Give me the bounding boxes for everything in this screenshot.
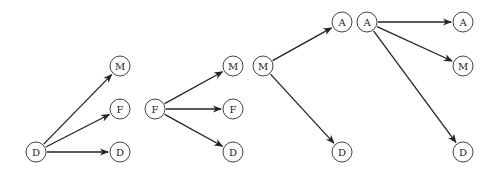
arrow-a-to-m	[377, 27, 452, 61]
node-m-target: M	[223, 56, 243, 76]
node-label: D	[229, 147, 237, 158]
node-a-source: A	[357, 12, 377, 32]
node-label: A	[362, 17, 371, 28]
node-f-target: F	[110, 99, 130, 119]
nodes: DMFDFMFDMADAAMD	[26, 12, 473, 162]
node-m-target: M	[453, 56, 473, 76]
arrow-a-to-d	[374, 31, 456, 142]
node-label: F	[152, 104, 159, 115]
arrow-d-to-f	[46, 114, 110, 147]
node-label: M	[228, 61, 238, 72]
arrow-m-to-a	[273, 28, 332, 61]
node-d-source: D	[26, 142, 46, 162]
node-label: A	[337, 17, 346, 28]
node-f-target: F	[223, 99, 243, 119]
node-m-source: M	[253, 56, 273, 76]
node-label: M	[115, 61, 125, 72]
node-label: D	[32, 147, 40, 158]
arrow-f-to-m	[165, 72, 223, 104]
node-a-target: A	[332, 12, 352, 32]
node-d-target: D	[332, 142, 352, 162]
node-label: M	[458, 61, 468, 72]
node-label: D	[116, 147, 124, 158]
node-label: F	[117, 104, 124, 115]
arrow-m-to-d	[270, 74, 333, 143]
node-label: D	[459, 147, 467, 158]
transition-diagram: DMFDFMFDMADAAMD	[0, 0, 497, 170]
node-d-target: D	[453, 142, 473, 162]
node-a-target: A	[453, 12, 473, 32]
node-label: A	[458, 17, 467, 28]
node-label: M	[258, 61, 268, 72]
node-label: F	[230, 104, 237, 115]
node-m-target: M	[110, 56, 130, 76]
arrow-f-to-d	[165, 114, 223, 146]
node-f-source: F	[145, 99, 165, 119]
node-label: D	[338, 147, 346, 158]
arrow-d-to-m	[44, 75, 112, 145]
edges	[44, 22, 456, 152]
node-d-target: D	[110, 142, 130, 162]
node-d-target: D	[223, 142, 243, 162]
